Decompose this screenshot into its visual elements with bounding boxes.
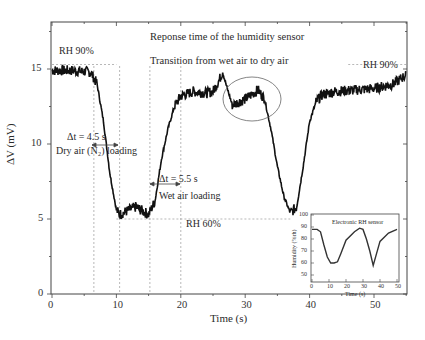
inset-y-tick-label: 90: [301, 223, 307, 229]
inset-x-tick-label: 10: [327, 283, 333, 289]
inset-title: Electronic RH sensor: [332, 219, 383, 225]
x-tick-label: 10: [112, 299, 123, 310]
inset-x-tick-label: 50: [395, 283, 401, 289]
x-tick-label: 30: [241, 299, 252, 310]
x-axis-label: Time (s): [210, 312, 247, 324]
rh90-left-label: RH 90%: [59, 45, 94, 56]
x-tick-label: 40: [306, 299, 317, 310]
rh90-right-label: RH 90%: [363, 59, 398, 70]
inset-x-tick-label: 40: [378, 283, 384, 289]
inset-y-tick-label: 50: [301, 271, 307, 277]
chart-title: Reponse time of the humidity sensor: [150, 31, 304, 42]
y-tick-label: 15: [31, 62, 42, 73]
inset-x-tick-label: 0: [310, 283, 313, 289]
y-tick-label: 5: [38, 212, 43, 223]
inset-y-tick-label: 80: [301, 235, 307, 241]
x-tick-label: 0: [48, 299, 53, 310]
dt1-label: Δt = 4.5 s: [67, 131, 106, 142]
inset-x-label: Time (s): [345, 291, 365, 297]
inset-y-tick-label: 100: [299, 211, 308, 217]
inset-y-label: Humidity (%rh): [291, 230, 297, 269]
inset-y-tick-label: 60: [301, 259, 307, 265]
x-tick-label: 20: [177, 299, 188, 310]
y-tick-label: 10: [31, 137, 42, 148]
dt2-label: Δt = 5.5 s: [159, 173, 198, 184]
transition-ellipse: [223, 77, 281, 121]
y-axis-label: ΔV (mV): [4, 124, 16, 165]
dry-air-label: Dry air (N₂) loading: [56, 145, 137, 156]
y-tick-label: 0: [38, 287, 43, 298]
inset-x-tick-label: 30: [361, 283, 367, 289]
x-tick-label: 50: [370, 299, 381, 310]
inset-x-tick-label: 20: [344, 283, 350, 289]
inset-y-tick-label: 70: [301, 247, 307, 253]
chart-subtitle: Transition from wet air to dry air: [150, 55, 288, 66]
delta-v-series: [52, 65, 406, 218]
wet-air-label: Wet air loading: [159, 190, 220, 201]
rh60-label: RH 60%: [186, 218, 221, 229]
